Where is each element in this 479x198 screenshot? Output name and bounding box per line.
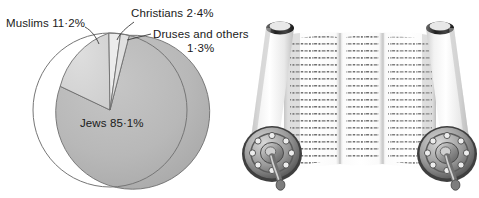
pie-label-jews: Jews 85·1% [80, 117, 144, 129]
torah-scroll-illustration [236, 6, 479, 198]
pie-label-christians: Christians 2·4% [131, 7, 214, 19]
pie-label-muslims: Muslims 11·2% [6, 17, 85, 29]
parchment-text-columns [290, 35, 432, 169]
torah-scroll-svg [236, 6, 479, 198]
right-finial-cap [417, 126, 477, 190]
pie-chart: Muslims 11·2% Christians 2·4% Druses and… [0, 0, 240, 198]
figure-canvas: Muslims 11·2% Christians 2·4% Druses and… [0, 0, 479, 198]
left-finial-cap [242, 126, 302, 190]
pie-label-druses-value: 1·3% [187, 42, 214, 54]
pie-label-druses: Druses and others [153, 28, 249, 40]
